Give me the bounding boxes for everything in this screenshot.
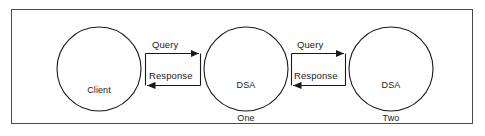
node-circle-dsa-two [349,27,433,111]
node-circle-client [57,27,141,111]
edge-label-query-left: Query [151,39,179,50]
edge-label-response-right: Response [293,70,339,81]
diagram-canvas: Client DSA One DSA Two Query Response Qu… [0,0,485,136]
edge-label-query-right: Query [296,39,324,50]
node-circle-dsa-one [204,27,288,111]
edge-label-response-left: Response [148,70,194,81]
diagram-graphics [0,0,485,136]
